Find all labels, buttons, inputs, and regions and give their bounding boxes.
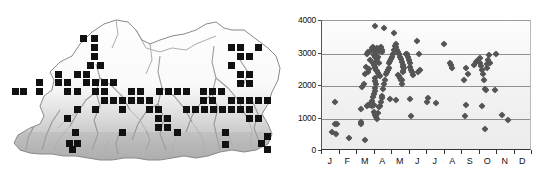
occurrence-square xyxy=(101,88,108,95)
x-tick-mark xyxy=(391,150,392,154)
occurrence-square xyxy=(209,97,216,104)
gridline xyxy=(322,119,530,120)
y-tick-label: 2000 xyxy=(288,81,316,90)
plot-area xyxy=(321,20,531,150)
occurrence-square xyxy=(200,88,207,95)
data-point xyxy=(463,101,470,108)
x-tick-mark xyxy=(426,150,427,154)
data-point xyxy=(480,76,487,83)
occurrence-square xyxy=(36,88,43,95)
data-point xyxy=(390,30,397,37)
data-point xyxy=(460,77,467,84)
occurrence-square xyxy=(218,88,225,95)
occurrence-square xyxy=(246,115,253,122)
occurrence-square xyxy=(222,129,229,136)
occurrence-square xyxy=(20,88,27,95)
occurrence-square xyxy=(101,97,108,104)
x-tick-mark xyxy=(339,150,340,154)
occurrence-square xyxy=(246,53,253,60)
occurrence-square xyxy=(137,88,144,95)
data-point xyxy=(361,136,368,143)
occurrence-square xyxy=(12,88,19,95)
gridline xyxy=(322,86,530,87)
x-tick-mark xyxy=(461,150,462,154)
occurrence-square xyxy=(119,106,126,113)
occurrence-square xyxy=(246,106,253,113)
occurrence-square xyxy=(155,106,162,113)
y-tick-label: 4000 xyxy=(288,16,316,25)
x-tick-mark xyxy=(514,150,515,154)
occurrence-square xyxy=(87,62,94,69)
occurrence-square xyxy=(128,97,135,104)
y-tick-label: 1000 xyxy=(288,114,316,123)
x-tick-label: F xyxy=(339,157,355,166)
occurrence-square xyxy=(200,97,207,104)
occurrence-square xyxy=(101,79,108,86)
occurrence-square xyxy=(72,129,79,136)
occurrence-square xyxy=(97,62,104,69)
x-tick-label: J xyxy=(322,157,338,166)
data-point xyxy=(465,70,472,77)
occurrence-square xyxy=(164,115,171,122)
occurrence-square xyxy=(246,71,253,78)
x-tick-label: M xyxy=(392,157,408,166)
occurrence-square xyxy=(74,106,81,113)
occurrence-square xyxy=(210,106,217,113)
occurrence-square xyxy=(110,97,117,104)
occurrence-square xyxy=(146,97,153,104)
data-point xyxy=(392,96,399,103)
data-point xyxy=(482,86,489,93)
data-point xyxy=(357,106,364,113)
occurrence-square xyxy=(164,124,171,131)
data-point xyxy=(346,134,353,141)
occurrence-square xyxy=(146,106,153,113)
x-tick-mark xyxy=(356,150,357,154)
occurrence-square xyxy=(246,97,253,104)
occurrence-square xyxy=(156,88,163,95)
x-tick-mark xyxy=(321,150,322,154)
data-point xyxy=(416,50,423,57)
occurrence-square xyxy=(219,106,226,113)
occurrence-square xyxy=(246,80,253,87)
occurrence-square xyxy=(92,106,99,113)
occurrence-square xyxy=(183,106,190,113)
x-tick-label: M xyxy=(357,157,373,166)
x-tick-label: N xyxy=(497,157,513,166)
occurrence-square xyxy=(119,129,126,136)
data-point xyxy=(505,116,512,123)
occurrence-square xyxy=(74,88,81,95)
occurrence-square xyxy=(137,97,144,104)
x-tick-label: J xyxy=(409,157,425,166)
occurrence-square xyxy=(264,133,271,140)
occurrence-square xyxy=(228,97,235,104)
data-point xyxy=(492,86,499,93)
occurrence-square xyxy=(237,53,244,60)
x-tick-mark xyxy=(374,150,375,154)
x-tick-label: J xyxy=(427,157,443,166)
occurrence-square xyxy=(80,35,87,42)
data-point xyxy=(440,41,447,48)
occurrence-square xyxy=(264,97,271,104)
y-tick-label: 0 xyxy=(288,146,316,155)
occurrence-square xyxy=(237,44,244,51)
occurrence-square xyxy=(155,115,162,122)
occurrence-square xyxy=(128,88,135,95)
occurrence-square xyxy=(237,97,244,104)
x-tick-mark xyxy=(409,150,410,154)
occurrence-square xyxy=(183,88,190,95)
occurrence-square xyxy=(237,106,244,113)
occurrence-square xyxy=(264,146,271,153)
occurrence-square xyxy=(228,44,235,51)
occurrence-square xyxy=(69,146,76,153)
data-point xyxy=(481,125,488,132)
occurrence-square xyxy=(174,129,181,136)
data-point xyxy=(381,25,388,32)
occurrence-square xyxy=(92,79,99,86)
occurrence-square xyxy=(91,35,98,42)
occurrence-square xyxy=(255,115,262,122)
occurrence-square xyxy=(55,79,62,86)
x-tick-mark xyxy=(444,150,445,154)
occurrence-square xyxy=(119,97,126,104)
occurrence-square xyxy=(228,106,235,113)
occurrence-square xyxy=(222,141,229,148)
